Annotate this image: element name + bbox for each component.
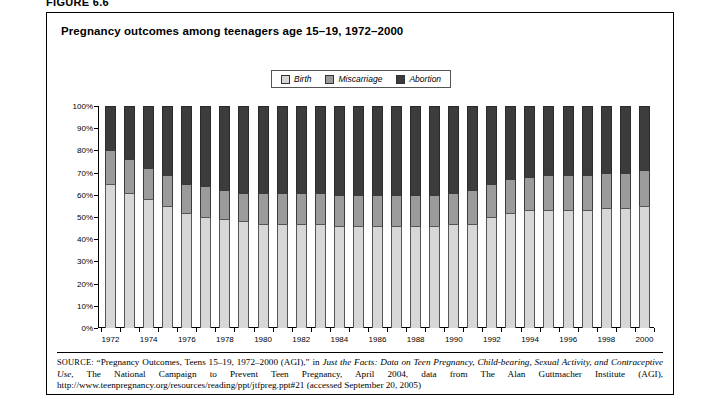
legend-label: Birth <box>294 74 311 84</box>
bar-segment-birth <box>543 210 554 328</box>
bar-segment-miscarriage <box>639 170 650 206</box>
bar-segment-birth <box>162 206 173 328</box>
x-axis-tick-label: 1976 <box>178 335 196 344</box>
bar-1975[interactable] <box>162 106 173 328</box>
bar-segment-miscarriage <box>277 193 288 224</box>
bar-segment-miscarriage <box>448 193 459 224</box>
bar-segment-birth <box>238 221 249 328</box>
bar-1997[interactable] <box>582 106 593 328</box>
bar-1982[interactable] <box>296 106 307 328</box>
bar-segment-birth <box>219 219 230 328</box>
x-axis-tick-label: 1986 <box>369 335 387 344</box>
bar-segment-birth <box>353 226 364 328</box>
bar-2000[interactable] <box>639 106 650 328</box>
x-axis-tick-mark <box>368 328 369 332</box>
bar-segment-birth <box>524 210 535 328</box>
bar-segment-abortion <box>315 106 326 193</box>
bar-1987[interactable] <box>391 106 402 328</box>
y-axis-tick-mark <box>94 306 98 307</box>
x-axis-tick-mark <box>540 328 541 332</box>
x-axis-tick-label: 2000 <box>636 335 654 344</box>
x-axis-tick-label: 1972 <box>102 335 120 344</box>
bar-1995[interactable] <box>543 106 554 328</box>
y-axis-tick-mark <box>94 173 98 174</box>
bar-segment-abortion <box>448 106 459 193</box>
y-axis-tick-label: 10% <box>77 301 93 310</box>
y-axis-tick-mark <box>94 284 98 285</box>
bars-container <box>105 106 650 328</box>
bar-1978[interactable] <box>219 106 230 328</box>
bar-segment-abortion <box>639 106 650 170</box>
y-axis-tick-label: 50% <box>77 213 93 222</box>
bar-1979[interactable] <box>238 106 249 328</box>
bar-segment-miscarriage <box>238 193 249 222</box>
x-axis-tick-label: 1990 <box>445 335 463 344</box>
bar-segment-abortion <box>124 106 135 159</box>
y-axis-tick-label: 70% <box>77 168 93 177</box>
y-axis-tick-label: 0% <box>81 324 93 333</box>
bar-segment-birth <box>258 224 269 328</box>
y-axis-tick-label: 80% <box>77 146 93 155</box>
bar-1984[interactable] <box>334 106 345 328</box>
bar-1976[interactable] <box>181 106 192 328</box>
bar-1990[interactable] <box>448 106 459 328</box>
bar-1980[interactable] <box>258 106 269 328</box>
bar-1981[interactable] <box>277 106 288 328</box>
bar-1994[interactable] <box>524 106 535 328</box>
bar-1992[interactable] <box>486 106 497 328</box>
bar-segment-miscarriage <box>372 195 383 226</box>
bar-1985[interactable] <box>353 106 364 328</box>
x-axis-tick-mark <box>482 328 483 332</box>
bar-1986[interactable] <box>372 106 383 328</box>
x-axis-tick-mark <box>501 328 502 332</box>
bar-segment-abortion <box>601 106 612 173</box>
y-axis-tick-label: 90% <box>77 124 93 133</box>
bar-segment-miscarriage <box>563 175 574 211</box>
bar-1993[interactable] <box>505 106 516 328</box>
legend-label: Abortion <box>409 74 441 84</box>
legend-item: Abortion <box>396 74 441 84</box>
bar-1996[interactable] <box>563 106 574 328</box>
x-axis-tick-mark <box>349 328 350 332</box>
bar-segment-miscarriage <box>334 195 345 226</box>
x-axis-tick-mark <box>177 328 178 332</box>
x-axis-tick-mark <box>463 328 464 332</box>
bar-1972[interactable] <box>105 106 116 328</box>
bar-segment-birth <box>372 226 383 328</box>
x-axis-tick-label: 1994 <box>521 335 539 344</box>
bar-segment-birth <box>277 224 288 328</box>
bar-1974[interactable] <box>143 106 154 328</box>
bar-1999[interactable] <box>620 106 631 328</box>
y-axis-tick-label: 30% <box>77 257 93 266</box>
x-axis-tick-mark <box>292 328 293 332</box>
bar-segment-miscarriage <box>543 175 554 211</box>
bar-1983[interactable] <box>315 106 326 328</box>
bar-1973[interactable] <box>124 106 135 328</box>
bar-1989[interactable] <box>429 106 440 328</box>
bar-segment-miscarriage <box>467 190 478 223</box>
bar-segment-birth <box>315 224 326 328</box>
bar-segment-abortion <box>296 106 307 193</box>
bar-segment-miscarriage <box>181 184 192 213</box>
bar-segment-abortion <box>429 106 440 195</box>
x-axis-tick-mark <box>597 328 598 332</box>
bar-segment-birth <box>391 226 402 328</box>
bar-segment-miscarriage <box>105 150 116 183</box>
bar-segment-abortion <box>353 106 364 195</box>
bar-1991[interactable] <box>467 106 478 328</box>
bar-segment-miscarriage <box>315 193 326 224</box>
bar-segment-miscarriage <box>143 168 154 199</box>
source-note: SOURCE: “Pregnancy Outcomes, Teens 15–19… <box>57 357 663 392</box>
bar-1998[interactable] <box>601 106 612 328</box>
x-axis-tick-label: 1996 <box>559 335 577 344</box>
bar-segment-birth <box>505 213 516 328</box>
x-axis-tick-mark <box>330 328 331 332</box>
x-axis-tick-mark <box>273 328 274 332</box>
x-axis-tick-label: 1982 <box>292 335 310 344</box>
x-axis-tick-label: 1992 <box>483 335 501 344</box>
bar-segment-birth <box>620 208 631 328</box>
bar-1977[interactable] <box>200 106 211 328</box>
x-axis-tick-mark <box>559 328 560 332</box>
bar-1988[interactable] <box>410 106 421 328</box>
y-axis-tick-mark <box>94 195 98 196</box>
